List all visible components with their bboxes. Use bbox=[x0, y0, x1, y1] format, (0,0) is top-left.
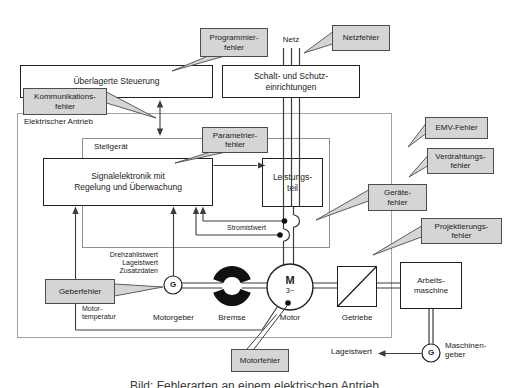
encoder-signals-label: Drehzahlistwert Lageistwert Zusatzdaten bbox=[96, 251, 158, 274]
motor-encoder-g-symbol: G bbox=[165, 280, 181, 289]
parametrierfehler-callout: Parametrier- fehler bbox=[202, 127, 268, 153]
lageistwert-label: Lageistwert bbox=[322, 347, 372, 356]
drive-fault-diagram: Überlagerte Steuerung Schalt- und Schutz… bbox=[0, 0, 514, 388]
netzfehler-pointer bbox=[304, 32, 333, 53]
verdrahtungsfehler-callout: Verdrahtungs- fehler bbox=[427, 148, 494, 174]
stellgeraet-label: Stellgerät bbox=[94, 142, 149, 151]
arbeitsmaschine-box: Arbeits- maschine bbox=[400, 262, 462, 309]
getriebe-label: Getriebe bbox=[335, 313, 379, 322]
getriebe-box bbox=[337, 266, 377, 307]
machine-encoder-link bbox=[429, 309, 433, 345]
arbeitsmaschine-label: Arbeits- maschine bbox=[414, 276, 448, 296]
signalelektronik-label: Signalelektronik mit Regelung und Überwa… bbox=[74, 171, 182, 192]
machine-encoder-g-symbol: G bbox=[423, 348, 439, 357]
bremse-label: Bremse bbox=[209, 313, 255, 322]
signalelektronik-box: Signalelektronik mit Regelung und Überwa… bbox=[43, 158, 213, 206]
schaltgeraete-box: Schalt- und Schutz- einrichtungen bbox=[222, 65, 360, 98]
ueberlagerte-steuerung-label: Überlagerte Steuerung bbox=[73, 76, 159, 87]
emv-fehler-pointer bbox=[408, 124, 426, 147]
netz-label: Netz bbox=[278, 35, 304, 44]
figure-caption: Bild: Fehlerarten an einem elektrischen … bbox=[130, 380, 514, 388]
verdrahtungsfehler-pointer bbox=[409, 156, 428, 177]
elektrischer-antrieb-label: Elektrischer Antrieb bbox=[24, 117, 119, 126]
arrow-up bbox=[157, 100, 163, 108]
geraetefehler-callout: Geräte- fehler bbox=[368, 184, 427, 211]
emv-fehler-callout: EMV-Fehler bbox=[425, 117, 488, 139]
schaltgeraete-label: Schalt- und Schutz- einrichtungen bbox=[254, 71, 328, 92]
arrow-left bbox=[378, 350, 386, 356]
netzfehler-callout: Netzfehler bbox=[332, 25, 390, 51]
motorgeber-label: Motorgeber bbox=[146, 313, 201, 322]
motor-3ph-symbol: 3~ bbox=[278, 287, 302, 296]
kommunikationsfehler-callout: Kommunikations- fehler bbox=[23, 88, 107, 115]
stromistwert-label: Stromistwert bbox=[220, 224, 266, 232]
geberfehler-callout: Geberfehler bbox=[45, 279, 115, 304]
motorfehler-callout: Motorfehler bbox=[231, 349, 289, 372]
leistungsteil-label: Leistungs- teil bbox=[273, 172, 312, 193]
motortemperatur-label: Motor- temperatur bbox=[82, 305, 127, 321]
motor-label: Motor bbox=[269, 313, 311, 322]
projektierungsfehler-callout: Projektierungs- fehler bbox=[421, 218, 502, 244]
programmierfehler-callout: Programmier- fehler bbox=[200, 28, 268, 57]
maschinengeber-label: Maschinen- geber bbox=[445, 341, 500, 360]
leistungsteil-box: Leistungs- teil bbox=[262, 158, 323, 207]
